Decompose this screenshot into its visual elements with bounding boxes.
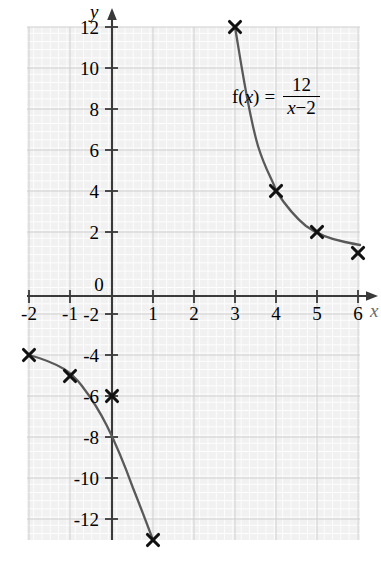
x-tick-label: 3 [221, 303, 249, 325]
x-tick-label: -1 [50, 303, 90, 325]
formula-equals: = [264, 86, 275, 108]
formula-function-var: x [245, 86, 253, 108]
formula-fraction: 12 x−2 [283, 75, 320, 118]
y-tick-label: 4 [55, 181, 99, 203]
y-tick-label: -6 [55, 386, 99, 408]
y-tick-label: -10 [55, 468, 99, 490]
y-tick-label: -4 [55, 345, 99, 367]
formula-denominator-const: 2 [306, 97, 316, 118]
formula-denominator: x−2 [283, 97, 320, 118]
y-tick-label: 10 [55, 58, 99, 80]
formula-denominator-var: x [287, 97, 295, 118]
formula-denominator-op: − [296, 97, 307, 118]
x-tick-label: 6 [344, 303, 372, 325]
formula-function-close: ) [253, 86, 259, 108]
y-tick-label: 12 [55, 17, 99, 39]
y-tick-label: 6 [55, 140, 99, 162]
y-tick-label: -8 [55, 427, 99, 449]
y-tick-label: 2 [55, 222, 99, 244]
y-tick-label: -12 [55, 509, 99, 531]
x-tick-label: 1 [139, 303, 167, 325]
formula-numerator: 12 [288, 75, 315, 96]
x-tick-label: -2 [9, 303, 49, 325]
function-formula-annotation: f(x) = 12 x−2 [232, 75, 320, 118]
y-tick-label: 8 [55, 99, 99, 121]
x-tick-label: 4 [262, 303, 290, 325]
function-graph-figure: y x 12 10 8 6 4 2 -2 -4 -6 -8 -10 -12 -2… [0, 0, 381, 564]
x-tick-label: 2 [180, 303, 208, 325]
formula-function-head: f( [232, 86, 245, 108]
x-tick-label: 0 [85, 274, 113, 296]
x-tick-label: 5 [303, 303, 331, 325]
